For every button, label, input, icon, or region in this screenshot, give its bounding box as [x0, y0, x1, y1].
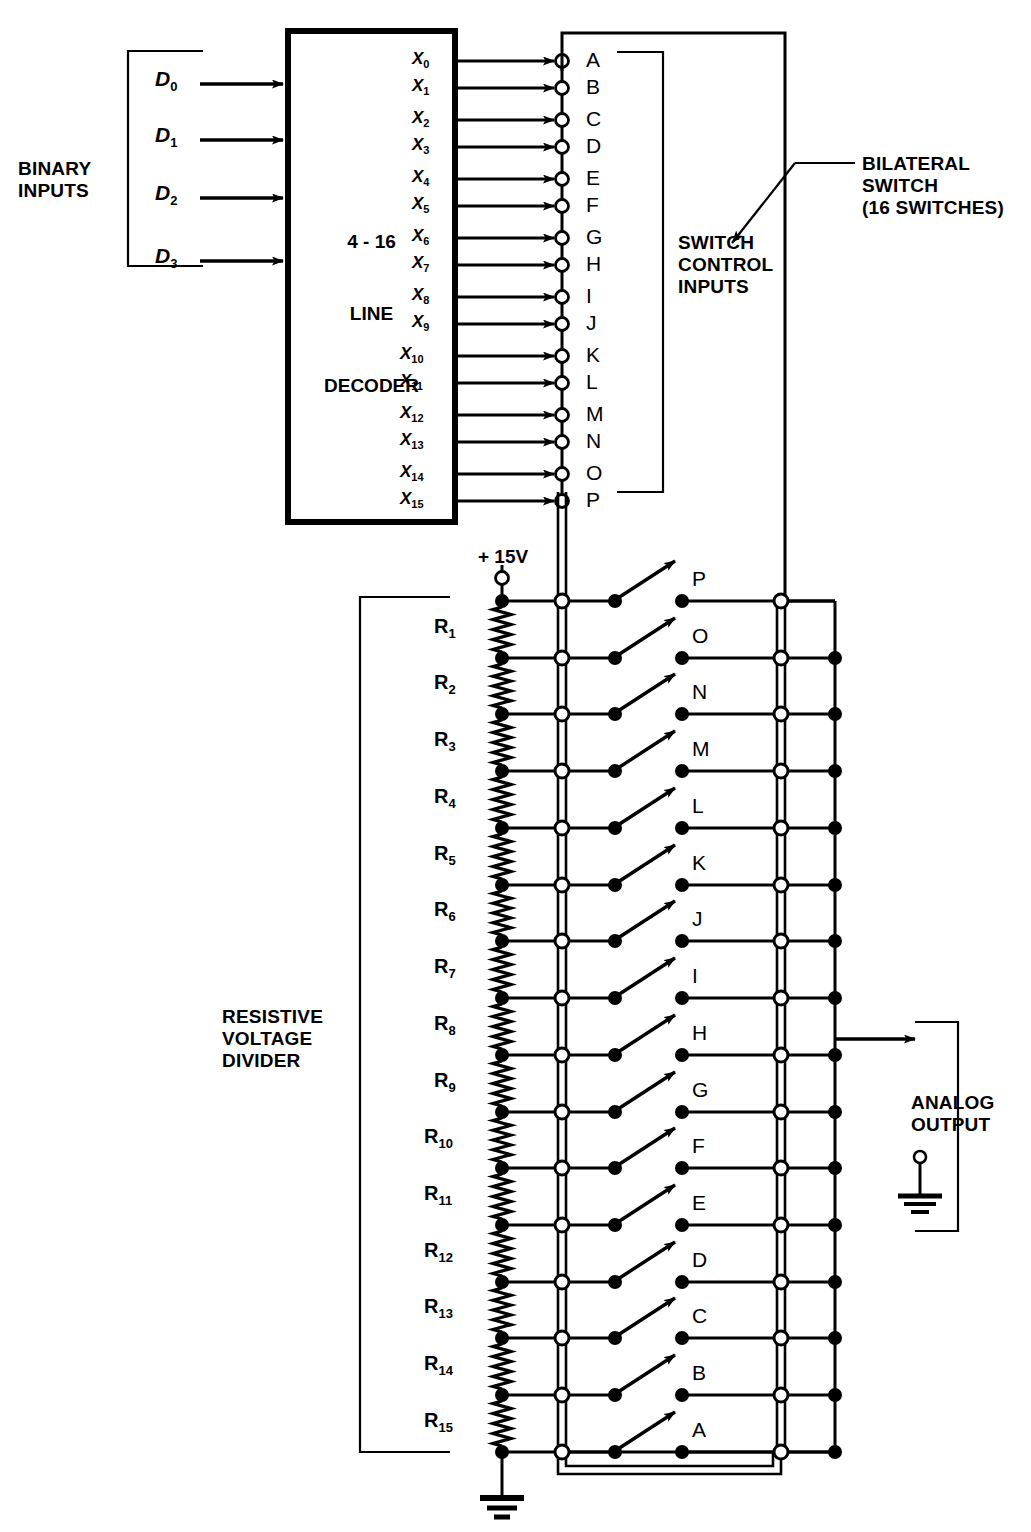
- analog-output-bus: [777, 601, 785, 1452]
- switch-blade-N[interactable]: [618, 674, 675, 711]
- control-crossing-J: [555, 934, 569, 948]
- switch-blade-M[interactable]: [618, 731, 675, 768]
- switch-pole-right-F: [675, 1161, 689, 1175]
- switch-label-P: P: [692, 567, 706, 591]
- resistor-label-R13: R13: [424, 1295, 453, 1321]
- resistor-label-R7: R7: [434, 955, 456, 981]
- resistor-label-R9: R9: [434, 1069, 456, 1095]
- switch-blade-I[interactable]: [618, 958, 675, 995]
- decoder-output-label-X10: X10: [400, 344, 424, 365]
- resistor-symbols: [493, 607, 511, 1446]
- analog-output-label: ANALOG OUTPUT: [911, 1092, 995, 1136]
- switch-control-bus: [558, 492, 781, 1474]
- resistor-R14: [493, 1344, 511, 1389]
- control-letter-F: F: [586, 193, 599, 217]
- control-letter-J: J: [586, 311, 597, 335]
- control-node-N: [556, 436, 569, 449]
- decoder-output-label-X7: X7: [412, 253, 429, 274]
- decoder-label: 4 - 16 LINE DECODER: [288, 182, 455, 446]
- switch-blade-A[interactable]: [618, 1412, 675, 1449]
- resistor-label-R4: R4: [434, 785, 456, 811]
- decoder-label-line3: DECODER: [288, 374, 455, 398]
- decoder-output-label-X1: X1: [412, 76, 429, 97]
- decoder-output-label-X8: X8: [412, 285, 429, 306]
- output-crossing-B: [774, 1388, 788, 1402]
- resistor-label-R8: R8: [434, 1012, 456, 1038]
- control-crossing-C: [555, 1331, 569, 1345]
- control-crossing-O: [555, 651, 569, 665]
- control-crossing-H: [555, 1048, 569, 1062]
- decoder-output-label-X14: X14: [400, 462, 424, 483]
- output-crossing-H: [774, 1048, 788, 1062]
- control-crossing-A: [555, 1445, 569, 1459]
- switch-blade-L[interactable]: [618, 788, 675, 825]
- switch-blade-K[interactable]: [618, 845, 675, 882]
- resistor-R15: [493, 1401, 511, 1446]
- resistor-R11: [493, 1174, 511, 1219]
- control-crossing-E: [555, 1218, 569, 1232]
- resistor-R8: [493, 1004, 511, 1049]
- switch-pole-right-O: [675, 651, 689, 665]
- decoder-output-label-X12: X12: [400, 403, 424, 424]
- control-node-J: [556, 318, 569, 331]
- ladder-rows: [495, 594, 842, 1459]
- resistor-R5: [493, 834, 511, 879]
- switch-control-bracket: [617, 52, 663, 492]
- switch-label-A: A: [692, 1418, 706, 1442]
- switch-blade-F[interactable]: [618, 1128, 675, 1165]
- switch-blade-B[interactable]: [618, 1355, 675, 1392]
- output-crossing-L: [774, 821, 788, 835]
- decoder-output-label-X11: X11: [400, 371, 423, 392]
- switch-label-B: B: [692, 1361, 706, 1385]
- output-crossing-G: [774, 1105, 788, 1119]
- switch-blade-P[interactable]: [618, 561, 675, 598]
- switch-pole-right-D: [675, 1275, 689, 1289]
- resistor-R3: [493, 720, 511, 765]
- binary-inputs-label: BINARY INPUTS: [18, 158, 91, 202]
- control-crossing-F: [555, 1161, 569, 1175]
- control-node-H: [556, 259, 569, 272]
- control-node-C: [556, 114, 569, 127]
- decoder-output-label-X15: X15: [400, 489, 424, 510]
- control-crossing-M: [555, 764, 569, 778]
- switch-control-nodes: [556, 55, 569, 508]
- control-crossing-I: [555, 991, 569, 1005]
- resistor-label-R14: R14: [424, 1352, 453, 1378]
- control-letter-K: K: [586, 343, 600, 367]
- supply-terminal: [496, 572, 509, 585]
- decoder-output-label-X13: X13: [400, 430, 424, 451]
- output-crossing-K: [774, 878, 788, 892]
- bilateral-switch-array: [608, 561, 689, 1459]
- control-crossing-G: [555, 1105, 569, 1119]
- resistive-divider-label: RESISTIVE VOLTAGE DIVIDER: [222, 1006, 323, 1072]
- switch-blade-O[interactable]: [618, 618, 675, 655]
- switch-pole-right-L: [675, 821, 689, 835]
- output-crossing-J: [774, 934, 788, 948]
- switch-blade-C[interactable]: [618, 1298, 675, 1335]
- switch-label-L: L: [692, 794, 704, 818]
- control-node-B: [556, 82, 569, 95]
- switch-pole-right-H: [675, 1048, 689, 1062]
- switch-label-I: I: [692, 964, 698, 988]
- resistor-R2: [493, 664, 511, 708]
- switch-blade-H[interactable]: [618, 1015, 675, 1052]
- switch-label-N: N: [692, 680, 707, 704]
- control-node-F: [556, 200, 569, 213]
- switch-blade-E[interactable]: [618, 1185, 675, 1222]
- switch-blade-J[interactable]: [618, 901, 675, 938]
- decoder-output-label-X5: X5: [412, 194, 429, 215]
- control-crossing-P: [555, 594, 569, 608]
- resistor-R6: [493, 891, 511, 935]
- control-letter-P: P: [586, 488, 600, 512]
- switch-pole-right-E: [675, 1218, 689, 1232]
- switch-blade-D[interactable]: [618, 1242, 675, 1279]
- resistor-R12: [493, 1231, 511, 1276]
- control-node-O: [556, 468, 569, 481]
- switch-blade-G[interactable]: [618, 1072, 675, 1109]
- control-letter-D: D: [586, 134, 601, 158]
- control-letter-C: C: [586, 107, 601, 131]
- output-crossing-N: [774, 707, 788, 721]
- decoder-output-label-X6: X6: [412, 226, 429, 247]
- output-crossing-A: [774, 1445, 788, 1459]
- resistor-label-R3: R3: [434, 728, 456, 754]
